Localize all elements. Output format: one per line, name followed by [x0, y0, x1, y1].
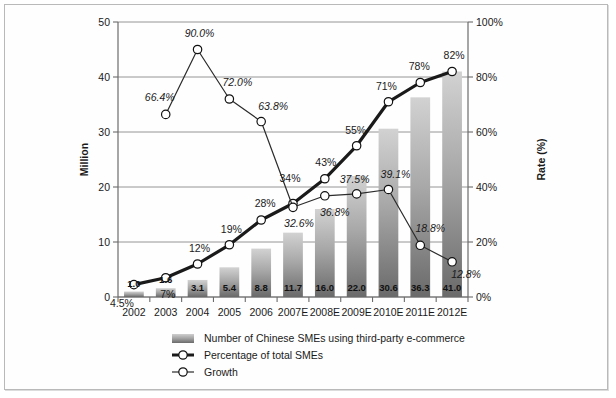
bar-value-label: 41.0 — [443, 282, 462, 293]
data-point-marker — [289, 203, 297, 211]
bar-value-label: 1.0 — [127, 278, 140, 289]
growth-value-label: 39.1% — [381, 168, 411, 180]
percentage-value-label: 82% — [444, 49, 465, 61]
percentage-value-label: 12% — [189, 242, 210, 254]
x-axis-tick-label: 2009E — [341, 306, 371, 318]
data-point-marker — [162, 110, 170, 118]
legend-label-growth: Growth — [204, 366, 238, 378]
data-point-marker — [352, 142, 360, 150]
x-axis-tick-label: 2005 — [218, 306, 242, 318]
data-point-marker — [448, 67, 456, 75]
legend-swatch-bars — [172, 334, 194, 343]
bar-value-label: 8.8 — [255, 282, 268, 293]
right-axis-tick-label: 80% — [476, 71, 497, 83]
growth-value-label: 37.5% — [340, 173, 370, 185]
x-axis-tick-label: 2007E — [278, 306, 308, 318]
x-axis-tick-label: 2006 — [250, 306, 274, 318]
x-axis-tick-labels: 200220032004200520062007E2008E2009E2010E… — [122, 306, 467, 318]
bar-value-label: 1.6 — [159, 274, 172, 285]
data-point-marker — [384, 185, 392, 193]
right-axis-title: Rate (%) — [535, 138, 547, 180]
right-axis-tick-label: 40% — [476, 181, 497, 193]
data-point-marker — [257, 117, 265, 125]
chart-canvas: 010203040500%20%40%60%80%100% 1.01.63.15… — [0, 0, 616, 398]
axis-titles: MillionRate (%) — [78, 138, 547, 180]
data-point-marker — [416, 241, 424, 249]
data-point-marker — [257, 216, 265, 224]
growth-line — [166, 50, 452, 262]
right-axis-tick-label: 100% — [476, 16, 503, 28]
data-point-marker — [225, 95, 233, 103]
percentage-value-label: 28% — [255, 197, 276, 209]
chart-legend: Number of Chinese SMEs using third-party… — [172, 332, 465, 378]
growth-value-label: 36.8% — [320, 206, 350, 218]
growth-value-label: 63.8% — [258, 100, 288, 112]
bar-value-label: 16.0 — [316, 282, 335, 293]
data-point-marker — [352, 190, 360, 198]
x-axis-tick-label: 2002 — [122, 306, 146, 318]
growth-value-label: 32.6% — [284, 217, 314, 229]
data-point-marker — [193, 260, 201, 268]
left-axis-tick-label: 10 — [98, 236, 110, 248]
legend-label-percentage: Percentage of total SMEs — [204, 349, 323, 361]
chart-figure: 010203040500%20%40%60%80%100% 1.01.63.15… — [0, 0, 616, 398]
bar — [410, 97, 430, 297]
bar — [379, 129, 399, 297]
left-axis-tick-label: 40 — [98, 71, 110, 83]
x-axis-tick-label: 2004 — [186, 306, 210, 318]
bar-value-label: 5.4 — [223, 282, 237, 293]
bar-value-label: 30.6 — [379, 282, 398, 293]
x-axis-tick-label: 2010E — [373, 306, 403, 318]
left-axis-tick-label: 30 — [98, 126, 110, 138]
growth-value-label: 66.4% — [145, 91, 175, 103]
left-axis-title: Million — [78, 143, 90, 176]
percentage-value-label: 71% — [376, 80, 397, 92]
bar-value-label: 22.0 — [347, 282, 366, 293]
growth-value-label: 90.0% — [185, 27, 215, 39]
legend-marker-growth-point — [179, 368, 187, 376]
data-point-marker — [321, 192, 329, 200]
percentage-value-label: 55% — [345, 124, 366, 136]
x-axis-tick-label: 2003 — [154, 306, 178, 318]
x-axis-tick-label: 2011E — [405, 306, 435, 318]
data-point-marker — [193, 45, 201, 53]
left-axis-tick-label: 50 — [98, 16, 110, 28]
legend-label-bars: Number of Chinese SMEs using third-party… — [204, 332, 465, 344]
bar-value-label: 11.7 — [284, 282, 302, 293]
right-axis-tick-label: 0% — [476, 291, 491, 303]
right-axis-tick-label: 60% — [476, 126, 497, 138]
x-axis-tick-label: 2008E — [310, 306, 340, 318]
percentage-value-label: 78% — [409, 60, 430, 72]
data-point-marker — [416, 78, 424, 86]
percentage-value-label: 7% — [160, 288, 175, 300]
percentage-value-label: 19% — [221, 223, 242, 235]
data-point-marker — [384, 98, 392, 106]
percentage-value-label: 34% — [279, 172, 300, 184]
data-point-marker — [225, 241, 233, 249]
data-point-marker — [448, 258, 456, 266]
growth-value-label: 12.8% — [451, 268, 481, 280]
percentage-value-label: 43% — [315, 156, 336, 168]
bar-series — [124, 72, 462, 298]
growth-value-label: 18.8% — [415, 222, 445, 234]
left-axis-tick-label: 20 — [98, 181, 110, 193]
right-axis-tick-label: 20% — [476, 236, 497, 248]
bar-value-label: 36.3 — [411, 282, 430, 293]
bar-value-label: 3.1 — [191, 282, 205, 293]
growth-value-label: 72.0% — [222, 76, 252, 88]
data-point-marker — [321, 175, 329, 183]
x-axis-tick-label: 2012E — [437, 306, 467, 318]
legend-marker-percentage-point — [179, 351, 187, 359]
